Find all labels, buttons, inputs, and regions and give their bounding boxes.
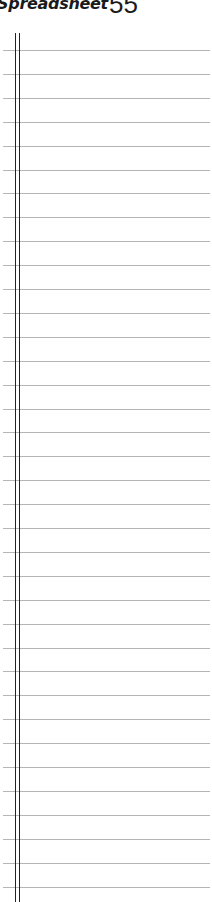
ruled-line bbox=[3, 719, 210, 720]
ruled-line bbox=[3, 432, 210, 433]
ruled-line bbox=[3, 863, 210, 864]
ruled-line bbox=[3, 385, 210, 386]
ruled-line bbox=[3, 74, 210, 75]
ruled-line bbox=[3, 600, 210, 601]
ruled-line bbox=[3, 289, 210, 290]
ruled-line bbox=[3, 409, 210, 410]
ruled-line bbox=[3, 193, 210, 194]
ruled-line bbox=[3, 671, 210, 672]
ruled-line bbox=[3, 337, 210, 338]
margin-line-right bbox=[19, 33, 20, 902]
ruled-line bbox=[3, 743, 210, 744]
ruled-line bbox=[3, 480, 210, 481]
ruled-line bbox=[3, 815, 210, 816]
page-number: 55 bbox=[109, 0, 138, 20]
ruled-line bbox=[3, 217, 210, 218]
ruled-line bbox=[3, 456, 210, 457]
ruled-line bbox=[3, 146, 210, 147]
ruled-line bbox=[3, 791, 210, 792]
ruled-line bbox=[3, 265, 210, 266]
ruled-line bbox=[3, 648, 210, 649]
ruled-line bbox=[3, 361, 210, 362]
ruled-line bbox=[3, 50, 210, 51]
margin-line-left bbox=[15, 33, 16, 902]
ruled-line bbox=[3, 887, 210, 888]
ruled-line bbox=[3, 552, 210, 553]
ruled-line bbox=[3, 122, 210, 123]
ruled-line bbox=[3, 313, 210, 314]
ruled-line bbox=[3, 241, 210, 242]
ruled-line bbox=[3, 624, 210, 625]
section-title: Spreadsheet bbox=[0, 0, 108, 13]
ruled-line bbox=[3, 839, 210, 840]
ruled-line bbox=[3, 504, 210, 505]
ruled-line bbox=[3, 576, 210, 577]
ruled-line bbox=[3, 98, 210, 99]
ruled-line bbox=[3, 695, 210, 696]
ruled-line bbox=[3, 170, 210, 171]
ruled-line bbox=[3, 528, 210, 529]
ruled-line bbox=[3, 767, 210, 768]
